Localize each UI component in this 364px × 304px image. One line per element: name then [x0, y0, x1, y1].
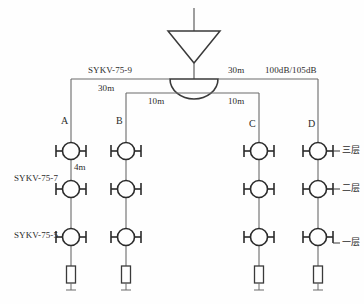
riser-cable-type-lower-label: SYKV-75-5: [14, 231, 58, 240]
trunk-length-left-label: 30m: [98, 84, 114, 93]
splitter-semicircle-icon: [170, 79, 218, 99]
amplifier-gain-label: 100dB/105dB: [265, 66, 317, 75]
floor-label-3: 三层: [342, 146, 360, 155]
riser-cable-type-upper-label: SYKV-75-7: [14, 174, 58, 183]
tv-outlet-icon: [313, 266, 323, 290]
trunk-length-inner-left-label: 10m: [148, 97, 164, 106]
tap-coupler-icon: [56, 229, 86, 246]
tap-coupler-icon: [244, 181, 274, 198]
tap-coupler-icon: [111, 181, 141, 198]
tap-coupler-icon: [56, 181, 86, 198]
trunk-length-right-label: 30m: [228, 66, 244, 75]
branch-label-A: A: [61, 116, 68, 126]
tap-coupler-icon: [111, 229, 141, 246]
catv-riser-diagram: SYKV-75-9 30m 30m 100dB/105dB 10m 10m A …: [0, 0, 364, 304]
tv-outlet-icon: [121, 266, 131, 290]
branch-label-B: B: [116, 116, 123, 126]
diagram-canvas: [0, 0, 364, 304]
floor-label-2: 二层: [342, 184, 360, 193]
tap-coupler-icon: [111, 143, 141, 160]
branch-label-D: D: [308, 119, 315, 129]
tap-coupler-icon: [244, 229, 274, 246]
tv-outlet-icon: [254, 266, 264, 290]
tv-outlet-icon: [66, 266, 76, 290]
tap-coupler-icon: [303, 143, 333, 160]
trunk-cable-type-label: SYKV-75-9: [88, 66, 132, 75]
trunk-length-inner-right-label: 10m: [228, 97, 244, 106]
tap-coupler-icon: [244, 143, 274, 160]
branch-label-C: C: [249, 119, 256, 129]
riser-spacing-label: 4m: [74, 163, 86, 172]
tap-coupler-icon: [303, 181, 333, 198]
floor-label-1: 一层: [342, 238, 360, 247]
tap-coupler-icon: [303, 229, 333, 246]
tap-coupler-icon: [56, 143, 86, 160]
amplifier-triangle-icon: [168, 31, 220, 63]
